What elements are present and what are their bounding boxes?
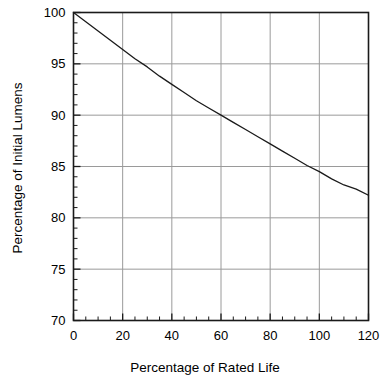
x-tick-label: 100 xyxy=(308,328,330,343)
y-tick-label: 90 xyxy=(51,108,65,123)
y-tick-label: 80 xyxy=(51,210,65,225)
x-tick-label: 60 xyxy=(214,328,228,343)
x-tick-label: 120 xyxy=(358,328,380,343)
y-axis-title: Percentage of Initial Lumens xyxy=(10,82,25,253)
x-axis-title: Percentage of Rated Life xyxy=(130,360,279,375)
y-tick-label: 95 xyxy=(51,56,65,71)
chart-figure: 020406080100120 707580859095100 Percenta… xyxy=(0,0,387,387)
y-tick-label: 100 xyxy=(44,5,66,20)
y-tick-label: 75 xyxy=(51,262,65,277)
x-tick-label: 20 xyxy=(115,328,129,343)
x-tick-label: 80 xyxy=(263,328,277,343)
x-tick-label: 0 xyxy=(70,328,77,343)
y-tick-label: 85 xyxy=(51,159,65,174)
chart-canvas: 020406080100120 707580859095100 Percenta… xyxy=(0,0,387,387)
y-tick-label: 70 xyxy=(51,313,65,328)
x-tick-label: 40 xyxy=(165,328,179,343)
